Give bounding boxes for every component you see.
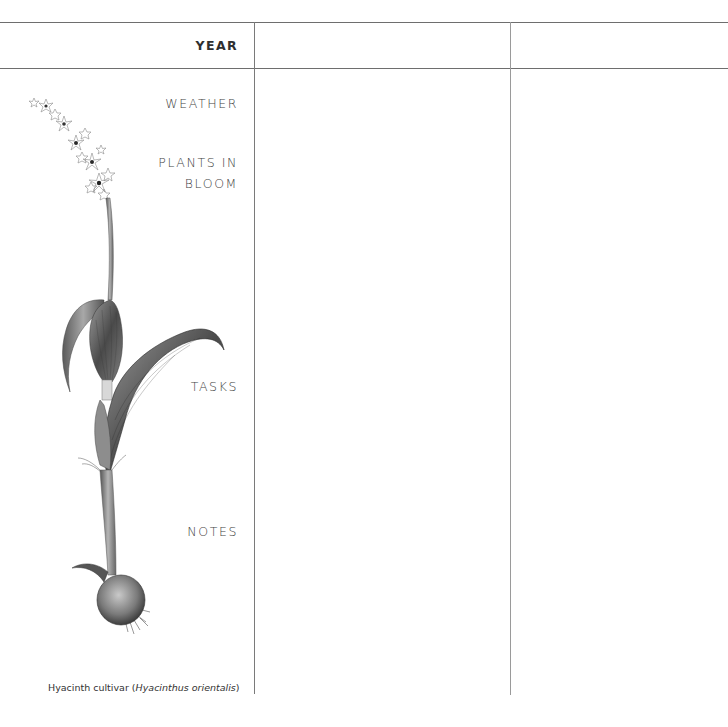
hyacinth-illustration xyxy=(0,90,240,650)
lower-stem-icon xyxy=(100,470,116,575)
caption-close-paren: ) xyxy=(236,682,240,693)
caption-latin-name: Hyacinthus orientalis xyxy=(136,682,236,693)
stalk-icon xyxy=(106,198,113,300)
year-column-2-cell[interactable] xyxy=(511,23,728,68)
bulb-tunic-icon xyxy=(72,564,108,582)
right-leaf-icon xyxy=(105,329,224,480)
stem-collar-icon xyxy=(102,380,112,400)
entry-column-1[interactable] xyxy=(255,69,510,694)
entry-column-2[interactable] xyxy=(511,69,728,695)
year-column-1-cell[interactable] xyxy=(255,23,510,68)
lower-sheath-icon xyxy=(95,400,111,470)
year-header-label: YEAR xyxy=(196,35,239,56)
flower-spike-icon xyxy=(29,98,115,200)
illustration-caption: Hyacinth cultivar (Hyacinthus orientalis… xyxy=(48,682,240,693)
caption-common-name: Hyacinth cultivar ( xyxy=(48,682,136,693)
bulb-icon xyxy=(97,575,145,625)
